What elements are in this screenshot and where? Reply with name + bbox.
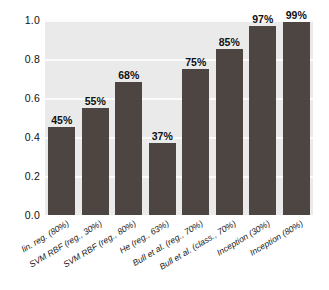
bar-value-label: 37% bbox=[152, 131, 173, 142]
bar-slot: 55% bbox=[79, 20, 113, 215]
y-axis-tick-label: 0.6 bbox=[8, 93, 40, 104]
bar-value-label: 68% bbox=[118, 70, 139, 81]
bar[interactable] bbox=[182, 69, 209, 215]
y-axis-tick-label: 0.0 bbox=[8, 210, 40, 221]
x-axis: lin. reg. (80%)SVM RBF (reg., 30%)SVM RB… bbox=[45, 215, 313, 290]
bar-slot: 68% bbox=[112, 20, 146, 215]
bar-slot: 85% bbox=[213, 20, 247, 215]
y-axis-tick-label: 0.4 bbox=[8, 132, 40, 143]
bars-group: 45%55%68%37%75%85%97%99% bbox=[45, 20, 313, 215]
bar-value-label: 45% bbox=[51, 115, 72, 126]
bar[interactable] bbox=[283, 22, 310, 215]
y-axis-tick-label: 0.8 bbox=[8, 54, 40, 65]
y-axis-tick-label: 0.2 bbox=[8, 171, 40, 182]
bar[interactable] bbox=[48, 127, 75, 215]
cropped-caption bbox=[2, 281, 327, 290]
bar-slot: 99% bbox=[280, 20, 314, 215]
bar-value-label: 55% bbox=[85, 96, 106, 107]
bar-slot: 45% bbox=[45, 20, 79, 215]
bar[interactable] bbox=[82, 108, 109, 215]
bar-chart-figure: 1.00.80.60.40.20.0 45%55%68%37%75%85%97%… bbox=[0, 0, 329, 290]
bar-slot: 97% bbox=[246, 20, 280, 215]
bar[interactable] bbox=[216, 49, 243, 215]
bar-value-label: 97% bbox=[252, 14, 273, 25]
bar[interactable] bbox=[249, 26, 276, 215]
bar-value-label: 75% bbox=[185, 57, 206, 68]
bar-value-label: 99% bbox=[286, 10, 307, 21]
bar-slot: 75% bbox=[179, 20, 213, 215]
plot-area: 45%55%68%37%75%85%97%99% bbox=[45, 20, 313, 215]
bar-value-label: 85% bbox=[219, 37, 240, 48]
bar[interactable] bbox=[115, 82, 142, 215]
y-axis-tick-label: 1.0 bbox=[8, 15, 40, 26]
bar[interactable] bbox=[149, 143, 176, 215]
bar-slot: 37% bbox=[146, 20, 180, 215]
